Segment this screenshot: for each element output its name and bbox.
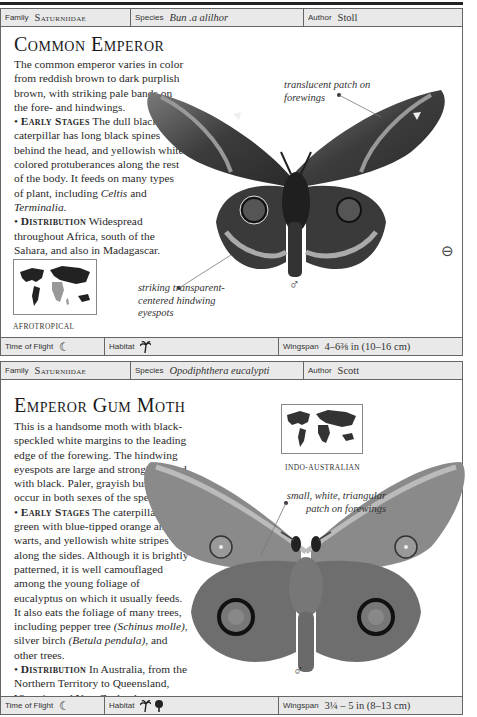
family-label: Family [5,366,29,375]
card2-family-cell: Family Saturniidae [1,362,131,379]
distribution-heading: Distribution [21,663,86,675]
author-label: Author [308,366,332,375]
author-value: Stoll [338,12,358,23]
card2-range-map [281,404,363,454]
emperor-gum-moth-image [136,452,471,687]
callout-leader-line [256,500,296,560]
card1-habitat-cell: Habitat [105,338,279,355]
card1-wingspan-cell: Wingspan 4–6⅜ in (10–16 cm) [279,338,462,355]
card1-flight-cell: Time of Flight ☾ [1,338,105,355]
card2-wingspan-cell: Wingspan 3¼ – 5 in (8–13 cm) [279,697,462,714]
card1-range-map [13,259,97,315]
card1-species-cell: Species Bun .a alilhor [131,9,304,26]
card2-author-cell: Author Scott [304,362,462,379]
moon-icon: ☾ [59,700,70,712]
flight-label: Time of Flight [5,701,53,710]
deciduous-tree-icon [154,700,164,712]
family-value: Saturniidae [35,365,87,376]
habitat-label: Habitat [109,701,134,710]
male-symbol: ♂ [289,277,300,293]
wingspan-value: 4–6⅜ in (10–16 cm) [325,341,411,352]
species-value: Opodiphthera eucalypti [169,365,269,376]
callout-leader-line [176,252,236,292]
world-map-indo-australian [282,405,362,453]
card2-footer-bar: Time of Flight ☾ Habitat Wingspan 3¼ – 5… [0,696,463,715]
world-map-afrotropical [14,260,96,314]
card2-title: Emperor Gum Moth [14,394,185,417]
card2-species-cell: Species Opodiphthera eucalypti [131,362,304,379]
family-label: Family [5,13,29,22]
card1-family-cell: Family Saturniidae [1,9,131,26]
species-label: Species [135,366,163,375]
palm-tree-icon [140,341,151,353]
card2-habitat-cell: Habitat [105,697,279,714]
wingspan-label: Wingspan [283,342,319,351]
card2-body: Emperor Gum Moth This is a handsome moth… [0,380,463,696]
card1-map-label: AFROTROPICAL [13,322,74,331]
card1-header-bar: Family Saturniidae Species Bun .a alilho… [0,8,463,27]
species-value: Bun .a alilhor [169,12,228,23]
card2-flight-cell: Time of Flight ☾ [1,697,105,714]
card1-body: Common Emperor The common emperor varies… [0,27,463,337]
card1-footer-bar: Time of Flight ☾ Habitat Wingspan 4–6⅜ i… [0,337,463,356]
family-value: Saturniidae [35,12,87,23]
early-stages-heading: Early Stages [21,115,90,127]
wingspan-label: Wingspan [283,701,319,710]
habitat-label: Habitat [109,342,134,351]
distribution-heading: Distribution [21,215,86,227]
author-label: Author [308,13,332,22]
flight-label: Time of Flight [5,342,53,351]
male-symbol: ♂ [293,663,304,679]
card2-header-bar: Family Saturniidae Species Opodiphthera … [0,361,463,380]
early-stages-heading: Early Stages [21,506,90,518]
wingspan-value: 3¼ – 5 in (8–13 cm) [325,700,411,711]
zoom-out-icon[interactable]: ⊖ [441,242,454,260]
moon-icon: ☾ [59,341,70,353]
card1-title: Common Emperor [14,33,164,56]
callout-leader-line [336,92,386,122]
page-top-rule [0,2,463,5]
card1-author-cell: Author Stoll [304,9,462,26]
author-value: Scott [338,365,360,376]
species-label: Species [135,13,163,22]
palm-tree-icon [140,700,151,712]
